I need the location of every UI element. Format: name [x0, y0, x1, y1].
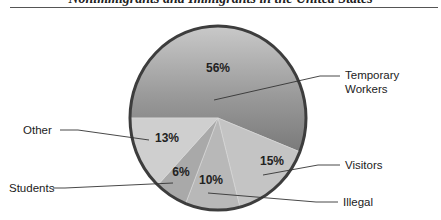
- label-temporary-line1: Temporary: [345, 68, 399, 82]
- label-temporary-workers: Temporary Workers: [345, 68, 399, 96]
- label-visitors: Visitors: [345, 158, 383, 172]
- pie-chart: 56% 15% 10% 6% 13%: [0, 0, 441, 220]
- pct-students: 6%: [172, 165, 190, 179]
- pct-illegal: 10%: [199, 173, 223, 187]
- pct-temporary: 56%: [206, 61, 230, 75]
- label-other: Other: [23, 123, 52, 137]
- pct-other: 13%: [155, 131, 179, 145]
- label-temporary-line2: Workers: [345, 82, 399, 96]
- pct-visitors: 15%: [260, 154, 284, 168]
- label-students: Students: [9, 181, 54, 195]
- label-illegal: Illegal: [343, 195, 373, 209]
